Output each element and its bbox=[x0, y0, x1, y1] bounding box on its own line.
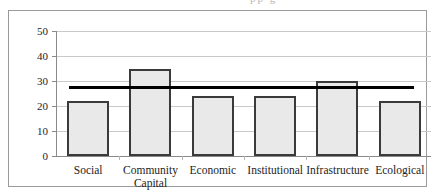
clipped-caption-artifact: pp g bbox=[250, 0, 390, 5]
y-tick-label-0: 0 bbox=[43, 150, 49, 162]
x-axis-separator-tick bbox=[244, 156, 245, 160]
x-axis-separator-tick bbox=[306, 156, 307, 160]
x-tick-label-social: Social bbox=[74, 164, 103, 177]
x-tick-label-economic: Economic bbox=[190, 164, 237, 177]
bar-slot bbox=[244, 31, 306, 156]
bar-economic[interactable] bbox=[192, 96, 234, 156]
y-tick-label-10: 10 bbox=[37, 125, 48, 137]
x-tick-label-infrastructure: Infrastructure bbox=[306, 164, 369, 177]
bar-slot bbox=[119, 31, 181, 156]
x-tick-label-ecological: Ecological bbox=[375, 164, 424, 177]
bar-slot bbox=[57, 31, 119, 156]
y-tick-label-50: 50 bbox=[37, 25, 48, 37]
bar-community-capital[interactable] bbox=[129, 69, 171, 157]
average-reference-line bbox=[69, 86, 414, 89]
x-axis-separator-tick bbox=[369, 156, 370, 160]
bar-slot bbox=[369, 31, 431, 156]
chart-plot-frame: 01020304050 SocialCommunityCapitalEconom… bbox=[8, 10, 427, 187]
bar-infrastructure[interactable] bbox=[316, 81, 358, 156]
bar-slot bbox=[182, 31, 244, 156]
y-tick-label-30: 30 bbox=[37, 75, 48, 87]
chart-figure: pp g 01020304050 SocialCommunityCapitalE… bbox=[0, 0, 436, 195]
x-axis-separator-tick bbox=[119, 156, 120, 160]
bar-institutional[interactable] bbox=[254, 96, 296, 156]
bar-slot bbox=[306, 31, 368, 156]
clipped-caption-text: pp g bbox=[250, 0, 277, 4]
x-axis-separator-tick bbox=[182, 156, 183, 160]
bar-ecological[interactable] bbox=[379, 101, 421, 156]
y-tick-label-40: 40 bbox=[37, 50, 48, 62]
x-tick-label-institutional: Institutional bbox=[247, 164, 303, 177]
plot-area: 01020304050 SocialCommunityCapitalEconom… bbox=[57, 31, 431, 156]
x-tick-label-community-capital: CommunityCapital bbox=[123, 164, 178, 190]
y-tick-label-20: 20 bbox=[37, 100, 48, 112]
y-tick-mark-0 bbox=[52, 156, 57, 157]
bar-social[interactable] bbox=[67, 101, 109, 156]
